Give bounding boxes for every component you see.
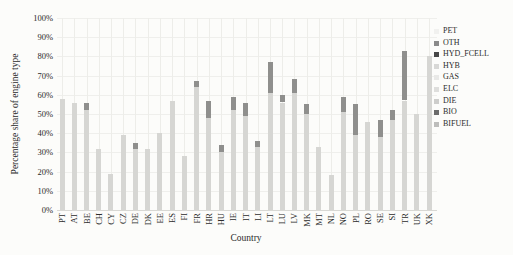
legend-label-HYD_FCELL: HYD_FCELL	[443, 49, 489, 58]
legend-label-HYB: HYB	[443, 61, 460, 70]
legend-label-BIFUEL: BIFUEL	[443, 119, 471, 128]
bar-PL-DIE	[353, 104, 358, 135]
legend-label-ELC: ELC	[443, 84, 458, 93]
legend-swatch-GAS	[434, 75, 439, 80]
y-tick-label-20: 20%	[19, 167, 53, 177]
x-tick-label-ES: ES	[167, 213, 177, 239]
y-tick-label-60: 60%	[19, 90, 53, 100]
bar-IT-PET	[243, 116, 248, 210]
bar-BE-DIE	[84, 103, 89, 111]
x-tick-label-NO: NO	[338, 213, 348, 239]
x-tick-label-UK: UK	[412, 213, 422, 239]
x-tick-label-DK: DK	[143, 213, 153, 239]
x-tick-label-HR: HR	[204, 213, 214, 239]
x-tick-label-IE: IE	[228, 213, 238, 239]
bar-FR-PET	[194, 87, 199, 210]
x-tick-label-TR: TR	[400, 213, 410, 239]
bar-PL-PET	[353, 135, 358, 210]
y-tick-label-80: 80%	[19, 51, 53, 61]
x-tick-label-NL: NL	[326, 213, 336, 239]
bar-LV-PET	[292, 93, 297, 210]
y-tick-label-90: 90%	[19, 32, 53, 42]
x-tick-label-XK: XK	[424, 213, 434, 239]
bar-XK-PET	[427, 56, 432, 210]
bar-MK-DIE	[304, 104, 309, 114]
x-tick-label-HU: HU	[216, 213, 226, 239]
legend-label-PET: PET	[443, 26, 457, 35]
x-tick-label-FR: FR	[192, 213, 202, 239]
bar-IE-DIE	[231, 97, 236, 110]
x-tick-label-DE: DE	[130, 213, 140, 239]
y-tick-label-0: 0%	[19, 205, 53, 215]
x-tick-label-SI: SI	[387, 213, 397, 239]
bar-DK-PET	[145, 149, 150, 210]
bar-ES-PET	[170, 101, 175, 210]
bar-FI-PET	[182, 156, 187, 210]
x-tick-label-CZ: CZ	[118, 213, 128, 239]
bar-MT-PET	[316, 147, 321, 210]
x-tick-label-SE: SE	[375, 213, 385, 239]
legend-swatch-BIO	[434, 110, 439, 115]
bar-LU-PET	[280, 103, 285, 211]
bar-TR-PET	[402, 101, 407, 210]
bar-IT-DIE	[243, 103, 248, 116]
bar-RO-PET	[365, 122, 370, 210]
bar-LI-PET	[255, 147, 260, 210]
bar-PT-PET	[60, 99, 65, 210]
bar-DE-DIE	[133, 143, 138, 149]
y-tick-label-100: 100%	[19, 13, 53, 23]
bar-AT-PET	[72, 103, 77, 211]
x-tick-label-CY: CY	[106, 213, 116, 239]
x-tick-label-MT: MT	[314, 213, 324, 239]
bar-TR-DIE	[402, 51, 407, 101]
bar-HU-DIE	[219, 145, 224, 153]
legend-swatch-BIFUEL	[434, 122, 439, 127]
x-tick-label-BE: BE	[82, 213, 92, 239]
bar-FR-DIE	[194, 81, 199, 87]
x-tick-label-LU: LU	[277, 213, 287, 239]
bar-SI-DIE	[390, 110, 395, 120]
x-tick-label-CH: CH	[94, 213, 104, 239]
bar-NO-DIE	[341, 97, 346, 112]
x-tick-label-LT: LT	[265, 213, 275, 239]
x-tick-label-IT: IT	[241, 213, 251, 239]
bar-LI-DIE	[255, 141, 260, 147]
x-tick-label-AT: AT	[69, 213, 79, 239]
y-tick-label-30: 30%	[19, 147, 53, 157]
bar-NO-PET	[341, 112, 346, 210]
legend-swatch-HYB	[434, 64, 439, 69]
legend-label-DIE: DIE	[443, 96, 456, 105]
bar-LU-DIE	[280, 95, 285, 103]
bar-CY-PET	[108, 174, 113, 211]
bar-SE-PET	[378, 137, 383, 210]
x-tick-label-RO: RO	[363, 213, 373, 239]
legend-swatch-ELC	[434, 87, 439, 92]
legend-label-GAS: GAS	[443, 72, 459, 81]
legend-swatch-OTH	[434, 41, 439, 46]
bar-EE-PET	[157, 133, 162, 210]
x-axis-line	[57, 210, 437, 211]
bar-LV-DIE	[292, 79, 297, 92]
x-tick-label-LI: LI	[253, 213, 263, 239]
bar-CZ-PET	[121, 135, 126, 210]
bar-IE-PET	[231, 110, 236, 210]
bar-HU-PET	[219, 152, 224, 210]
x-tick-label-LV: LV	[289, 213, 299, 239]
engine-type-chart: Percentage share of engine type Country …	[0, 0, 513, 255]
bar-BE-PET	[84, 110, 89, 210]
y-tick-label-50: 50%	[19, 109, 53, 119]
bar-CH-PET	[96, 149, 101, 210]
bar-SI-PET	[390, 120, 395, 210]
bar-HR-DIE	[206, 101, 211, 118]
x-tick-label-PT: PT	[57, 213, 67, 239]
bar-LT-DIE	[268, 62, 273, 93]
y-tick-label-70: 70%	[19, 71, 53, 81]
bar-HR-PET	[206, 118, 211, 210]
legend-label-OTH: OTH	[443, 38, 459, 47]
x-tick-label-MK: MK	[302, 213, 312, 239]
y-tick-label-10: 10%	[19, 186, 53, 196]
x-tick-label-PL: PL	[351, 213, 361, 239]
x-tick-label-EE: EE	[155, 213, 165, 239]
legend-swatch-HYD_FCELL	[434, 52, 439, 57]
bar-LT-PET	[268, 93, 273, 210]
